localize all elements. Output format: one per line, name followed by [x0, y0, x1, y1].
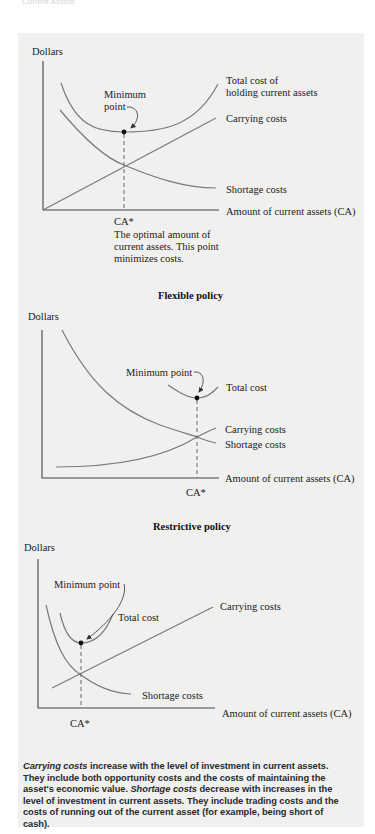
carrying-costs-curve	[56, 428, 216, 467]
carrying-costs-label: Carrying costs	[226, 113, 287, 124]
minimum-point-marker	[195, 396, 200, 401]
chart-optimal-investment: Dollars Minimum point Total cost of hold…	[32, 46, 356, 264]
annotation-line2: current assets. This point	[114, 241, 219, 252]
minimum-label-line2: point	[104, 101, 126, 112]
chart-flexible-policy: Flexible policy Dollars Minimum point To…	[28, 290, 355, 498]
carrying-costs-term: Carrying costs	[23, 761, 87, 771]
x-axis-label: Amount of current assets (CA)	[222, 708, 352, 720]
carrying-costs-label: Carrying costs	[220, 601, 281, 612]
shortage-costs-label: Shortage costs	[226, 184, 287, 195]
axes	[42, 330, 219, 478]
minimum-label: Minimum point	[54, 579, 120, 590]
minimum-label-line1: Minimum	[104, 89, 146, 100]
figure-footnote: Carrying costs increase with the level o…	[23, 761, 349, 831]
minimum-point-marker	[122, 130, 127, 135]
total-cost-label-1: Total cost of	[226, 75, 279, 86]
minimum-point-marker	[79, 641, 84, 646]
ca-star-label: CA*	[114, 216, 134, 227]
annotation-line1: The optimal amount of	[114, 229, 211, 240]
shortage-costs-label: Shortage costs	[225, 439, 286, 450]
chart-title: Flexible policy	[158, 290, 224, 301]
y-axis-label: Dollars	[24, 542, 55, 553]
total-cost-curve	[60, 613, 113, 643]
figure-charts: Dollars Minimum point Total cost of hold…	[0, 0, 375, 834]
total-cost-curve	[168, 385, 218, 398]
chart-restrictive-policy: Restrictive policy Dollars Minimum point…	[24, 521, 352, 729]
ca-star-label: CA*	[70, 718, 90, 729]
y-axis-label: Dollars	[32, 46, 63, 57]
y-axis-label: Dollars	[28, 311, 59, 322]
shortage-costs-curve	[62, 330, 216, 443]
ca-star-label: CA*	[186, 487, 206, 498]
total-cost-label: Total cost	[118, 612, 159, 623]
minimum-arrow	[194, 372, 203, 392]
x-axis-label: Amount of current assets (CA)	[225, 473, 355, 485]
minimum-label: Minimum point	[126, 367, 192, 378]
axes	[43, 61, 219, 210]
carrying-costs-label: Carrying costs	[225, 424, 286, 435]
shortage-costs-term: Shortage costs	[130, 784, 196, 794]
x-axis-label: Amount of current assets (CA)	[226, 206, 356, 218]
total-cost-label: Total cost	[226, 382, 267, 393]
shortage-costs-curve	[60, 110, 216, 188]
total-cost-label-2: holding current assets	[226, 87, 318, 98]
minimum-arrow	[127, 107, 138, 128]
annotation-line3: minimizes costs.	[114, 253, 184, 264]
chart-title: Restrictive policy	[153, 521, 232, 532]
shortage-costs-label: Shortage costs	[142, 690, 203, 701]
